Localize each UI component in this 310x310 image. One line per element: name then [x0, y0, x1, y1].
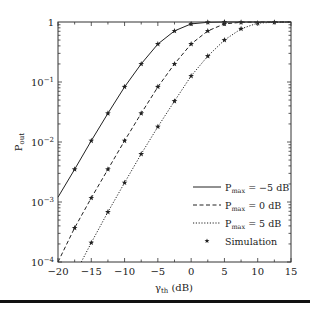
star-marker-icon [72, 166, 78, 171]
star-marker-icon [88, 138, 94, 143]
x-tick-label: 0 [188, 266, 194, 277]
outage-probability-chart: −20−15−10−5051015 10−410−310−210−11 γth … [0, 0, 310, 310]
series-line-0 [58, 22, 291, 197]
bottom-rule [0, 300, 310, 303]
legend-label: Pmax = 5 dB [225, 218, 281, 231]
star-marker-icon [155, 41, 161, 46]
star-marker-icon [88, 195, 94, 200]
star-marker-icon [105, 209, 111, 214]
x-tick-label: −20 [47, 266, 68, 277]
star-marker-icon [138, 151, 144, 156]
legend-label-simulation: Simulation [225, 236, 277, 247]
legend: Pmax = −5 dBPmax = 0 dBPmax = 5 dBSimula… [193, 182, 289, 247]
legend-star-icon [205, 238, 210, 243]
star-marker-icon [172, 98, 178, 103]
star-marker-icon [205, 53, 211, 58]
star-marker-icon [122, 180, 128, 185]
simulation-markers [72, 19, 277, 245]
star-marker-icon [155, 124, 161, 129]
x-tick-label: 10 [251, 266, 264, 277]
legend-label: Pmax = −5 dB [225, 182, 289, 195]
star-marker-icon [138, 110, 144, 115]
x-tick-label: −10 [114, 266, 135, 277]
y-tick-label: 1 [48, 17, 54, 28]
star-marker-icon [172, 61, 178, 66]
y-tick-label: 10−3 [31, 196, 54, 208]
x-axis-label: γth (dB) [155, 282, 193, 295]
star-marker-icon [222, 37, 228, 42]
star-marker-icon [122, 138, 128, 143]
x-tick-label: 15 [285, 266, 298, 277]
x-tick-labels: −20−15−10−5051015 [47, 266, 297, 277]
y-tick-labels: 10−410−310−210−11 [31, 17, 55, 268]
star-marker-icon [105, 110, 111, 115]
y-tick-label: 10−1 [31, 76, 54, 88]
star-marker-icon [72, 225, 78, 230]
star-marker-icon [105, 166, 111, 171]
x-tick-label: 5 [221, 266, 227, 277]
y-axis-label: Pout [13, 133, 26, 151]
x-tick-label: −15 [81, 266, 102, 277]
star-marker-icon [88, 240, 94, 245]
star-marker-icon [238, 26, 244, 31]
legend-label: Pmax = 0 dB [225, 200, 281, 213]
y-tick-label: 10−2 [31, 136, 54, 148]
x-tick-label: −5 [150, 266, 165, 277]
